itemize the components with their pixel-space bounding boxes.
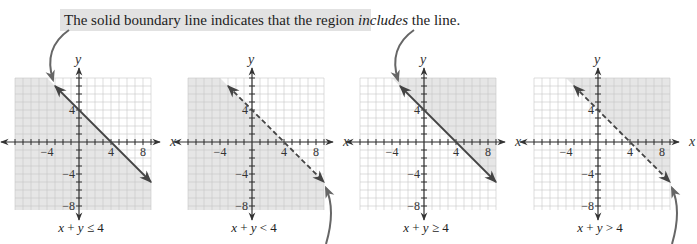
caption-part: ≤ 4: [84, 220, 105, 235]
y-tick-label: −8: [62, 199, 75, 213]
inequality-caption: x + y ≥ 4: [402, 220, 449, 235]
y-tick-label: −8: [235, 199, 248, 213]
y-axis-label: y: [246, 52, 255, 67]
caption-part: +: [237, 220, 251, 235]
caption-part: < 4: [257, 220, 278, 235]
callout-arrow: [326, 188, 331, 244]
x-tick-label: −4: [41, 145, 54, 159]
y-axis-label: y: [73, 52, 82, 67]
x-tick-label: 4: [108, 145, 114, 159]
callout-arrow: [395, 30, 414, 80]
callout-arrow: [50, 30, 69, 80]
x-tick-label: −4: [386, 145, 399, 159]
x-tick-label: 4: [453, 145, 459, 159]
caption-part: +: [583, 220, 597, 235]
caption-part: +: [409, 220, 423, 235]
x-tick-label: 4: [281, 145, 287, 159]
inequality-caption: x + y ≤ 4: [57, 220, 104, 235]
callout-arrow: [672, 188, 677, 244]
y-tick-label: −4: [62, 167, 75, 181]
caption-part: +: [64, 220, 78, 235]
y-tick-label: −4: [581, 167, 594, 181]
inequality-caption: x + y < 4: [230, 220, 277, 235]
y-axis-label: y: [592, 52, 601, 67]
y-axis-label: y: [418, 52, 427, 67]
graph-panel: −4484−4−8xyx + y < 4: [174, 52, 350, 244]
graph-panel: −4484−4−8xyx + y > 4: [520, 52, 696, 244]
x-axis-label: x: [688, 134, 696, 149]
graph-panel: −4484−4−8xyx + y ≤ 4: [1, 30, 177, 235]
caption-part: > 4: [603, 220, 624, 235]
y-tick-label: −4: [407, 167, 420, 181]
y-tick-label: −4: [235, 167, 248, 181]
x-tick-label: 8: [485, 145, 491, 159]
x-tick-label: 4: [627, 145, 633, 159]
graph-panel: −4484−4−8xyx + y ≥ 4: [346, 30, 522, 235]
x-tick-label: −4: [214, 145, 227, 159]
y-tick-label: −8: [581, 199, 594, 213]
callout-text-after: the line.: [408, 12, 460, 28]
callout: The solid boundary line indicates that t…: [60, 9, 460, 31]
x-tick-label: −4: [560, 145, 573, 159]
graph-panels: −4484−4−8xyx + y ≤ 4−4484−4−8xyx + y < 4…: [1, 30, 696, 244]
inequality-figure: The solid boundary line indicates that t…: [0, 0, 697, 244]
x-tick-label: 8: [659, 145, 665, 159]
callout-text-before: The solid boundary line indicates that t…: [64, 12, 358, 28]
x-tick-label: 8: [313, 145, 319, 159]
caption-part: ≥ 4: [429, 220, 450, 235]
inequality-caption: x + y > 4: [576, 220, 623, 235]
callout-text-emphasis: includes: [358, 12, 408, 28]
x-tick-label: 8: [140, 145, 146, 159]
y-tick-label: −8: [407, 199, 420, 213]
callout-text: The solid boundary line indicates that t…: [64, 12, 460, 28]
